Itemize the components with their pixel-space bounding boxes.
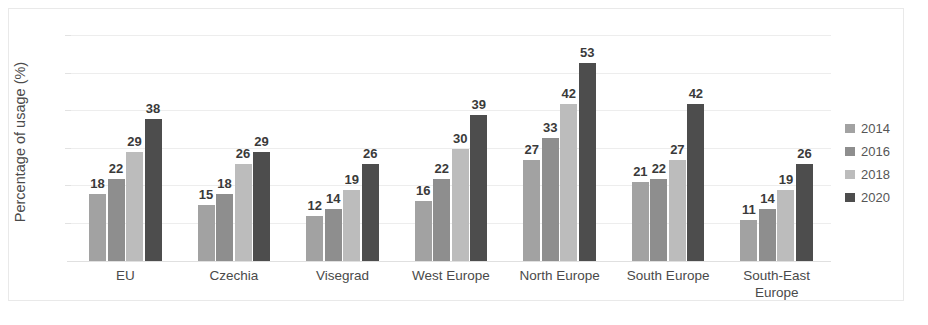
bar-slot: 22	[650, 179, 667, 261]
bar	[523, 160, 540, 261]
bar	[759, 209, 776, 261]
bar-slot: 21	[632, 182, 649, 261]
bar-value-label: 19	[779, 172, 793, 187]
category-label: West Europe	[391, 267, 511, 284]
bar	[362, 164, 379, 261]
bar-slot: 39	[470, 115, 487, 261]
bar-value-label: 38	[146, 101, 160, 116]
bar-slot: 33	[542, 138, 559, 261]
bar-group: 18222938EU	[71, 29, 180, 261]
bar	[452, 149, 469, 261]
bar-value-label: 19	[344, 172, 358, 187]
bar-slot: 18	[89, 194, 106, 261]
bar	[579, 63, 596, 261]
legend-item[interactable]: 2018	[845, 163, 915, 186]
category-label: Czechia	[174, 267, 294, 284]
bar-value-label: 11	[742, 202, 756, 217]
bar-value-label: 16	[416, 183, 430, 198]
bar-slot: 27	[669, 160, 686, 261]
bar-slot: 53	[579, 63, 596, 261]
category-label: North Europe	[500, 267, 620, 284]
plot-area: 18222938EU15182629Czechia12141926Visegra…	[71, 29, 831, 261]
category-label: South-East Europe	[717, 267, 837, 301]
bar	[687, 104, 704, 261]
bar-value-label: 42	[562, 86, 576, 101]
bar	[235, 164, 252, 261]
bar-value-label: 39	[472, 97, 486, 112]
bar-value-label: 30	[453, 131, 467, 146]
bar-group: 12141926Visegrad	[288, 29, 397, 261]
bar	[253, 152, 270, 261]
bar-value-label: 22	[652, 161, 666, 176]
bar-slot: 14	[759, 209, 776, 261]
bar-slot: 26	[235, 164, 252, 261]
y-axis-title-text: Percentage of usage (%)	[12, 62, 28, 222]
bar-value-label: 22	[109, 161, 123, 176]
legend-swatch-icon	[845, 193, 855, 202]
category-label: Visegrad	[282, 267, 402, 284]
bar	[306, 216, 323, 261]
bar-slot: 16	[415, 201, 432, 261]
bar	[433, 179, 450, 261]
bar-slot: 38	[145, 119, 162, 261]
bar-slot: 30	[452, 149, 469, 261]
bar-group: 15182629Czechia	[180, 29, 289, 261]
bar	[145, 119, 162, 261]
legend-item[interactable]: 2014	[845, 117, 915, 140]
bar-value-label: 21	[633, 164, 647, 179]
legend-label: 2014	[861, 121, 890, 136]
bar-slot: 18	[216, 194, 233, 261]
bar	[777, 190, 794, 261]
bar-slot: 19	[343, 190, 360, 261]
bar	[470, 115, 487, 261]
bar	[108, 179, 125, 261]
bar	[740, 220, 757, 261]
bar-slot: 26	[362, 164, 379, 261]
bar-value-label: 29	[254, 134, 268, 149]
bar-slot: 26	[796, 164, 813, 261]
bar	[632, 182, 649, 261]
bar-slot: 27	[523, 160, 540, 261]
bar	[669, 160, 686, 261]
legend-swatch-icon	[845, 124, 855, 133]
bar	[198, 205, 215, 261]
bar	[325, 209, 342, 261]
bar-value-label: 18	[90, 176, 104, 191]
bar-slot: 22	[433, 179, 450, 261]
bar	[415, 201, 432, 261]
bar-value-label: 14	[760, 191, 774, 206]
legend-label: 2016	[861, 144, 890, 159]
bar-value-label: 27	[670, 142, 684, 157]
legend-swatch-icon	[845, 147, 855, 156]
bar-value-label: 33	[543, 120, 557, 135]
bar-slot: 29	[253, 152, 270, 261]
legend-item[interactable]: 2020	[845, 186, 915, 209]
bar-value-label: 42	[689, 86, 703, 101]
bar	[216, 194, 233, 261]
bar	[343, 190, 360, 261]
bar-group: 27334253North Europe	[505, 29, 614, 261]
bar-value-label: 26	[236, 146, 250, 161]
bar-value-label: 26	[363, 146, 377, 161]
category-label: South Europe	[608, 267, 728, 284]
bar-value-label: 12	[307, 198, 321, 213]
bar-group: 21222742South Europe	[614, 29, 723, 261]
bar-value-label: 29	[127, 134, 141, 149]
bar	[126, 152, 143, 261]
bar-slot: 14	[325, 209, 342, 261]
bar	[650, 179, 667, 261]
bar-value-label: 18	[217, 176, 231, 191]
bar-slot: 15	[198, 205, 215, 261]
bar-slot: 11	[740, 220, 757, 261]
legend-label: 2018	[861, 167, 890, 182]
chart-legend: 2014201620182020	[845, 117, 915, 209]
bar	[89, 194, 106, 261]
bar	[542, 138, 559, 261]
bar-slot: 22	[108, 179, 125, 261]
chart-frame: Percentage of usage (%) 18222938EU151826…	[8, 8, 904, 301]
bar-slot: 42	[687, 104, 704, 261]
bar-value-label: 15	[199, 187, 213, 202]
bar-slot: 12	[306, 216, 323, 261]
bar-value-label: 53	[580, 45, 594, 60]
legend-item[interactable]: 2016	[845, 140, 915, 163]
